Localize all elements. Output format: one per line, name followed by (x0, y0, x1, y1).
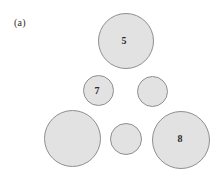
panel-label: (a) (14, 17, 26, 28)
circle-bottom-middle (110, 123, 142, 155)
circle-middle-left-label: 7 (95, 85, 100, 96)
circle-bottom-left (44, 110, 101, 167)
circle-bottom-right-label: 8 (178, 133, 183, 144)
circle-top-label: 5 (122, 35, 127, 46)
circle-middle-right (137, 76, 168, 107)
figure-panel: (a) 5 7 8 (0, 0, 218, 179)
